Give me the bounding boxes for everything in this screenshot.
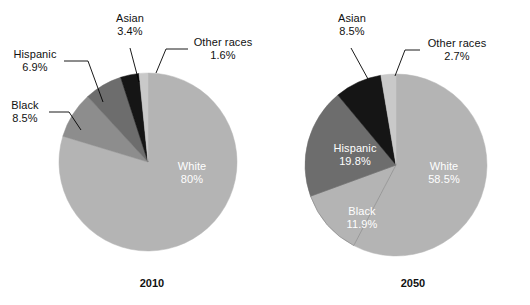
label-other-races-2010-pct: 1.6% xyxy=(184,49,262,62)
leader-other-2050 xyxy=(395,50,420,76)
label-black-2050-pct: 11.9% xyxy=(337,218,387,231)
leader-asian-2050 xyxy=(351,48,368,79)
label-black-2010-name: Black xyxy=(3,99,47,112)
label-other-races-2050-name: Other races xyxy=(418,37,496,50)
label-white-2050: White 58.5% xyxy=(418,160,470,186)
pie-chart-figure: Asian 3.4% Other races 1.6% Hispanic 6.9… xyxy=(0,0,530,305)
leader-lines-2050 xyxy=(351,48,420,79)
label-black-2010: Black 8.5% xyxy=(3,99,47,125)
label-white-2010-pct: 80% xyxy=(167,173,217,186)
label-other-races-2010: Other races 1.6% xyxy=(184,36,262,62)
label-white-2050-pct: 58.5% xyxy=(418,173,470,186)
label-asian-2050-name: Asian xyxy=(312,12,392,25)
label-white-2010: White 80% xyxy=(167,160,217,186)
label-hispanic-2010: Hispanic 6.9% xyxy=(6,48,64,74)
label-other-races-2050-pct: 2.7% xyxy=(418,50,496,63)
label-asian-2050-pct: 8.5% xyxy=(312,25,392,38)
label-black-2050-name: Black xyxy=(337,205,387,218)
label-white-2050-name: White xyxy=(418,160,470,173)
label-hispanic-2050-name: Hispanic xyxy=(324,142,386,155)
label-other-races-2010-name: Other races xyxy=(184,36,262,49)
label-asian-2050: Asian 8.5% xyxy=(312,12,392,38)
label-hispanic-2050-pct: 19.8% xyxy=(324,155,386,168)
label-black-2010-pct: 8.5% xyxy=(3,112,47,125)
label-asian-2010-name: Asian xyxy=(90,12,170,25)
label-black-2050: Black 11.9% xyxy=(337,205,387,231)
year-label-2050: 2050 xyxy=(389,277,437,289)
label-hispanic-2050: Hispanic 19.8% xyxy=(324,142,386,168)
label-other-races-2050: Other races 2.7% xyxy=(418,37,496,63)
label-white-2010-name: White xyxy=(167,160,217,173)
label-hispanic-2010-name: Hispanic xyxy=(6,48,64,61)
year-label-2010: 2010 xyxy=(128,277,176,289)
label-asian-2010-pct: 3.4% xyxy=(90,25,170,38)
label-asian-2010: Asian 3.4% xyxy=(90,12,170,38)
label-hispanic-2010-pct: 6.9% xyxy=(6,61,64,74)
